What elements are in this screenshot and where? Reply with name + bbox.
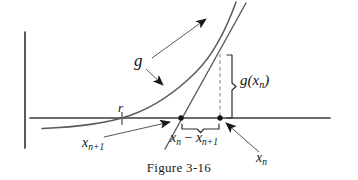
label-step-difference-second-subscript: n+1: [202, 137, 218, 147]
label-g-of-xn-tail: ): [264, 72, 269, 88]
leader-arrow-x-next: [104, 122, 170, 137]
label-step-difference: xn − xn+1: [170, 131, 218, 148]
label-function-g: g: [134, 52, 143, 69]
label-x-next: xn+1: [82, 136, 104, 153]
label-g-of-xn: g(xn): [240, 73, 269, 90]
leader-arrow-x-current: [226, 123, 259, 152]
leader-arrow-g-lower: [146, 69, 163, 85]
label-x-next-subscript: n+1: [88, 142, 104, 152]
point-x-next: [178, 115, 183, 120]
leader-arrow-g-upper: [152, 19, 206, 58]
point-x-current: [217, 115, 222, 120]
label-root-r: r: [118, 101, 123, 114]
figure-caption: Figure 3-16: [0, 160, 358, 176]
label-step-difference-operator: −: [181, 130, 196, 145]
tangent-line: [165, 3, 246, 149]
figure-3-16: g r g(xn) xn+1 xn − xn+1 xn Figure 3-16: [0, 0, 358, 180]
label-g-of-xn-head: g(x: [240, 72, 259, 88]
brace-g-of-xn: [227, 55, 236, 118]
figure-drawing: [0, 0, 358, 180]
